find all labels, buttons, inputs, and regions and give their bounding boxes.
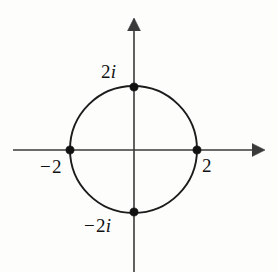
label-2i-number: 2 bbox=[101, 61, 111, 82]
label-2: 2 bbox=[202, 156, 212, 175]
label-minus-2i-imaginary-unit: i bbox=[106, 215, 111, 236]
label-2i-imaginary-unit: i bbox=[111, 61, 116, 82]
point-minus-2 bbox=[66, 146, 74, 154]
label-minus-2i-number: 2 bbox=[96, 215, 106, 236]
point-2i bbox=[130, 83, 138, 91]
imaginary-axis bbox=[128, 18, 141, 272]
label-2i: 2i bbox=[101, 62, 116, 81]
real-axis-arrow-icon bbox=[252, 144, 265, 157]
label-minus-2: −2 bbox=[40, 157, 62, 176]
point-2 bbox=[193, 146, 201, 154]
label-minus-2i: −2i bbox=[84, 216, 111, 235]
label-2-number: 2 bbox=[202, 155, 212, 176]
label-minus-2i-sign: − bbox=[84, 215, 95, 236]
label-minus-2-sign: − bbox=[40, 156, 51, 177]
complex-plane-figure: 2i −2 2 −2i bbox=[0, 0, 278, 272]
label-minus-2-number: 2 bbox=[52, 156, 62, 177]
point-minus-2i bbox=[130, 208, 138, 216]
imaginary-axis-arrow-icon bbox=[128, 18, 141, 31]
figure-canvas bbox=[0, 0, 278, 272]
real-axis bbox=[13, 144, 265, 157]
